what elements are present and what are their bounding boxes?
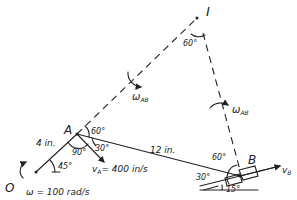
mechanism-diagram: O A B I 4 in. 12 in. 45° 90° 30° 60° 60°… bbox=[0, 0, 297, 200]
label-angle-B-60: 60° bbox=[212, 153, 226, 162]
label-omegaAB-2: ωAB bbox=[232, 104, 249, 116]
label-angle-A-30: 30° bbox=[95, 144, 109, 153]
label-angle-slope: 15° bbox=[226, 185, 240, 194]
dashed-line-IB bbox=[203, 33, 240, 170]
label-A: A bbox=[63, 123, 72, 137]
label-vB: vB bbox=[282, 165, 291, 176]
label-B: B bbox=[248, 153, 256, 167]
label-length-OA: 4 in. bbox=[36, 138, 56, 148]
angle-arc-B-60 bbox=[228, 165, 237, 173]
label-omega: ω = 100 rad/s bbox=[26, 187, 90, 197]
label-angle-I: 60° bbox=[183, 39, 197, 48]
point-O bbox=[35, 171, 38, 174]
omega-arrow-O bbox=[20, 162, 26, 178]
label-O: O bbox=[5, 181, 14, 195]
dashed-line-AI bbox=[77, 18, 197, 134]
angle-arc-A-60 bbox=[85, 126, 89, 137]
label-angle-A-60: 60° bbox=[91, 127, 105, 136]
angle-arc-O bbox=[50, 160, 55, 172]
label-angle-O: 45° bbox=[58, 162, 72, 171]
omegaAB-arrow-2 bbox=[210, 103, 228, 108]
label-angle-B-30: 30° bbox=[196, 173, 210, 182]
label-length-AB: 12 in. bbox=[150, 145, 175, 155]
label-vA: vA= 400 in/s bbox=[92, 164, 148, 175]
label-I: I bbox=[206, 4, 210, 19]
label-angle-A-90: 90° bbox=[72, 148, 86, 157]
label-omegaAB-1: ωAB bbox=[132, 91, 149, 103]
velocity-vB-arrow bbox=[240, 166, 280, 176]
point-I bbox=[196, 17, 199, 20]
